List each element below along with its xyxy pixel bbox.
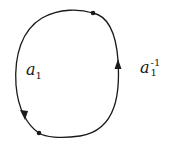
label-a1-inverse: a-11 xyxy=(140,58,160,78)
arrow-up-icon xyxy=(115,59,122,69)
top-point-dot xyxy=(91,11,96,16)
label-a1inv-base: a xyxy=(140,58,150,77)
label-a1: a1 xyxy=(26,62,42,81)
bottom-point-dot xyxy=(37,131,42,136)
label-a1-sub: 1 xyxy=(36,70,42,81)
arrow-down-icon xyxy=(20,110,28,120)
label-a1-base: a xyxy=(26,60,36,79)
label-a1inv-sub: 1 xyxy=(151,68,161,78)
